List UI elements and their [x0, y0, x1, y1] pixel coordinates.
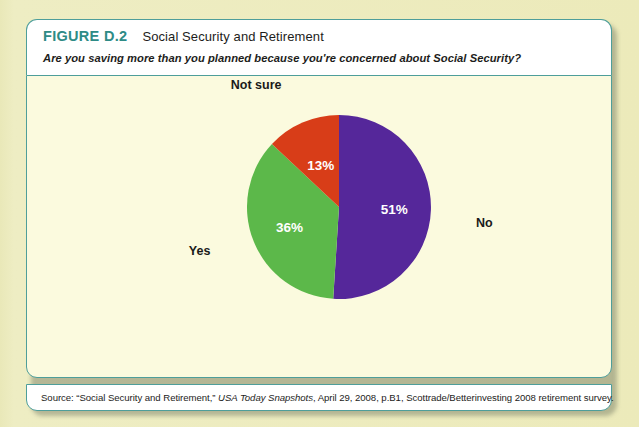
page-title: Social Security and Retirement	[142, 29, 323, 44]
figure-subtitle: Are you saving more than you planned bec…	[43, 52, 521, 64]
figure-header: FIGURE D.2Social Security and Retirement…	[26, 19, 612, 75]
source-publication: USA Today Snapshots	[218, 392, 313, 403]
pie-value-label-no: 51%	[381, 202, 408, 217]
pie-category-label-yes: Yes	[189, 244, 211, 258]
pie-chart: 51%36%13% NoYesNot sure	[27, 76, 613, 379]
pie-category-label-no: No	[476, 216, 493, 230]
source-note: Source: “Social Security and Retirement,…	[27, 392, 614, 403]
figure-card: FIGURE D.2Social Security and Retirement…	[26, 19, 612, 411]
pie-chart-svg: 51%36%13% NoYesNot sure	[27, 76, 613, 379]
figure-body: 51%36%13% NoYesNot sure	[26, 75, 612, 378]
pie-value-label-not-sure: 13%	[307, 158, 334, 173]
source-prefix: Source: “Social Security and Retirement,…	[41, 392, 218, 403]
source-suffix: , April 29, 2008, p.B1, Scottrade/Better…	[313, 392, 614, 403]
figure-number: FIGURE D.2	[43, 28, 127, 44]
pie-category-label-not-sure: Not sure	[231, 78, 282, 92]
figure-source-bar: Source: “Social Security and Retirement,…	[26, 384, 612, 411]
figure-title-row: FIGURE D.2Social Security and Retirement	[43, 27, 324, 45]
pie-value-label-yes: 36%	[276, 220, 303, 235]
